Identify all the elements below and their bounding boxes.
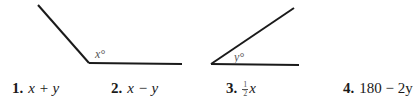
choice-expression: x + y (28, 80, 59, 96)
choice-expression: x − y (127, 80, 158, 96)
figure-x-ray-2 (89, 63, 182, 64)
choice-1[interactable]: 1.x + y (12, 80, 59, 97)
choice-number: 3. (226, 80, 237, 96)
choice-3[interactable]: 3.12x (226, 80, 256, 98)
figure-y-ray-2 (211, 64, 299, 65)
choice-number: 2. (111, 80, 122, 96)
choice-expression: 180 − 2y (359, 80, 412, 96)
fraction: 12 (242, 81, 248, 98)
angle-y-label: y° (234, 50, 244, 65)
choice-number: 4. (343, 80, 354, 96)
choice-2[interactable]: 2.x − y (111, 80, 158, 97)
figure-y-ray-1 (211, 8, 294, 64)
angle-x-label: x° (95, 47, 105, 62)
choice-4[interactable]: 4.180 − 2y (343, 80, 413, 97)
choice-number: 1. (12, 80, 23, 96)
figure-x-ray-1 (38, 5, 89, 63)
choice-expression: x (249, 80, 256, 96)
